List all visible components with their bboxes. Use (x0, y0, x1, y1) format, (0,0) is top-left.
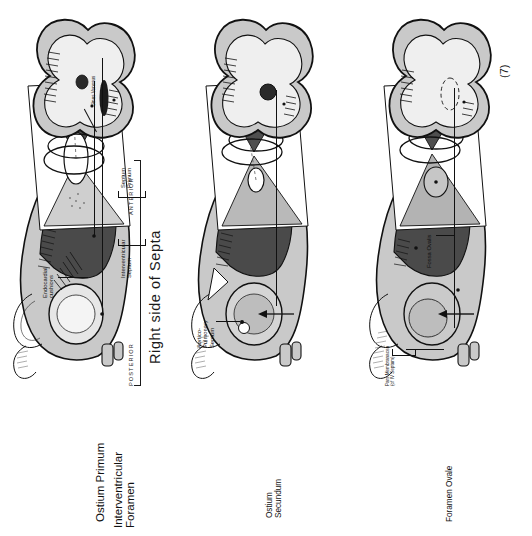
label-ostium-secundum: Ostium Secundum (266, 479, 284, 518)
row-1-leader-ostium-primum (102, 58, 103, 314)
row-1-leader-endocardial-cushions (58, 277, 88, 278)
label-pars-membranacea: Pars Membranacea (of IV Septum) (386, 346, 396, 386)
label-interventricular-foramen: Interventricular Foramen (112, 452, 137, 528)
row-2-leader-ostium-secundum (276, 90, 277, 306)
row-1-frontal-heart-view (20, 8, 152, 158)
row-3-panel: Foramen Ovale Fossa Ovalis Pars Membrana… (356, 0, 532, 536)
row-3-leader-foramen-ovale (454, 88, 455, 328)
label-endocardial-cushions: Endocardial cushions (42, 267, 55, 298)
row-3-leader-fossa-ovalis (436, 235, 454, 236)
label-sinus-venosus: Sinus Venosus (92, 76, 97, 106)
label-foramen-ovale: Foramen Ovale (446, 466, 455, 522)
row-3-frontal-heart-view (376, 8, 508, 158)
label-septum-primum: Septum Primum (120, 168, 133, 188)
row-2-frontal-heart-view (198, 8, 330, 158)
label-ostium-primum: Ostium Primum (94, 443, 106, 522)
label-fossa-ovalis: Fossa Ovalis (426, 234, 432, 268)
row-2-panel: Ostium Secundum Aortico- Pulmonary Septu… (178, 0, 356, 536)
label-aortico-pulmonary-septum: Aortico- Pulmonary Septum (196, 320, 215, 348)
label-interventricular-septum: Interventricular Septum (120, 240, 133, 278)
row-1-panel: Ostium Primum Sinus Venosus Interventric… (0, 0, 178, 536)
row-1-bracket-septum-primum (118, 191, 146, 198)
plate-stage: Right side of Septa (7) POSTERIOR ANTERI… (0, 0, 532, 536)
row-2-leader-aortico-pulmonary-septum (216, 321, 240, 322)
